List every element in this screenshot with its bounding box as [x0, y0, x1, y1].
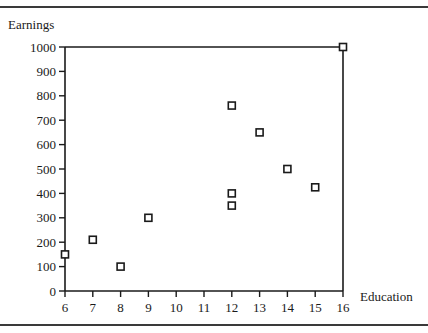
x-tick-label: 7	[90, 300, 97, 315]
y-tick-label: 600	[37, 137, 57, 152]
x-tick-label: 13	[253, 300, 266, 315]
data-point-marker	[228, 190, 235, 197]
y-axis-ticks: 01002003004005006007008009001000	[30, 40, 65, 299]
y-tick-label: 400	[37, 186, 57, 201]
y-axis-title: Earnings	[8, 17, 54, 32]
data-point-marker	[228, 102, 235, 109]
data-point-marker	[228, 202, 235, 209]
y-tick-label: 900	[37, 64, 57, 79]
x-tick-label: 15	[309, 300, 322, 315]
data-point-marker	[117, 263, 124, 270]
data-point-marker	[89, 236, 96, 243]
y-tick-label: 800	[37, 88, 57, 103]
y-tick-label: 700	[37, 113, 57, 128]
y-tick-label: 0	[50, 284, 57, 299]
data-point-marker	[62, 251, 69, 258]
x-axis-ticks: 678910111213141516	[62, 291, 350, 315]
x-axis-title: Education	[360, 289, 413, 304]
data-point-marker	[256, 129, 263, 136]
x-tick-label: 16	[337, 300, 351, 315]
data-points	[62, 44, 347, 271]
data-point-marker	[312, 184, 319, 191]
x-tick-label: 14	[281, 300, 295, 315]
x-tick-label: 12	[225, 300, 238, 315]
y-tick-label: 100	[37, 259, 57, 274]
x-tick-label: 10	[170, 300, 183, 315]
x-tick-label: 9	[145, 300, 152, 315]
data-point-marker	[284, 166, 291, 173]
x-tick-label: 6	[62, 300, 69, 315]
y-tick-label: 1000	[30, 40, 56, 55]
data-point-marker	[340, 44, 347, 51]
y-tick-label: 300	[37, 210, 57, 225]
axes	[65, 47, 343, 291]
y-tick-label: 200	[37, 235, 57, 250]
x-tick-label: 8	[117, 300, 124, 315]
y-tick-label: 500	[37, 162, 57, 177]
scatter-chart: Earnings Education 010020030040050060070…	[0, 0, 428, 333]
x-tick-label: 11	[198, 300, 211, 315]
data-point-marker	[145, 214, 152, 221]
